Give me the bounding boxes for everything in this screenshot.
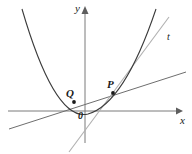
y-axis [82,6,89,143]
y-axis-label: y [75,3,80,14]
secant-line-pq [9,72,186,129]
point-marker-p [111,91,115,95]
tangent-line-t [69,17,169,152]
math-figure-parabola-tangent-secant: y x t P Q 0 [0,0,192,154]
y-axis-arrowhead [82,6,89,14]
x-axis-label: x [180,115,185,126]
origin-label: 0 [78,111,83,121]
figure-canvas [0,0,192,154]
tangent-line-label: t [167,32,170,42]
point-marker-q [72,100,76,104]
point-label-q: Q [66,88,74,99]
point-label-p: P [107,79,114,90]
